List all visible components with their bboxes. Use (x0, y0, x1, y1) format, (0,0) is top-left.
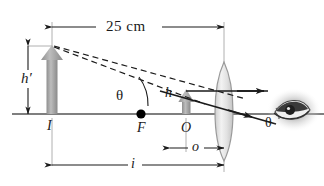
label-object-distance: o (192, 140, 199, 154)
diagram-canvas (0, 0, 324, 186)
optics-ray-diagram-figure: 25 cm h′ h I F O i o θ θ (0, 0, 324, 186)
label-object-height: h (165, 86, 172, 100)
object-arrow (178, 89, 194, 114)
focal-point-dot (136, 109, 145, 118)
label-focal-point: F (137, 121, 146, 135)
label-image-distance: i (131, 157, 135, 171)
label-object-point: O (181, 121, 191, 135)
image-arrow (41, 45, 63, 114)
eye-illustration (267, 88, 321, 132)
dimension-label-25cm: 25 cm (106, 19, 146, 34)
label-angle-at-eye: θ (265, 116, 272, 130)
label-image-point: I (47, 119, 52, 133)
label-angle-at-image: θ (116, 88, 123, 103)
label-image-height: h′ (21, 71, 32, 86)
